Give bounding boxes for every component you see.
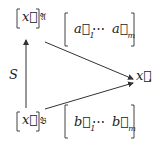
bottom-matrix-last: b⃗m (112, 115, 136, 128)
target-punct: . (148, 70, 152, 83)
arrow-bottom (45, 83, 133, 109)
bottom-matrix-ellipsis: ⋯ (92, 115, 105, 128)
top-matrix-last: a⃗m (112, 22, 135, 35)
top-coord-vector: x⃗ (22, 10, 37, 23)
arrow-label-s: S (9, 68, 18, 81)
bottom-coord-basis: 𝔅 (40, 117, 47, 126)
arrow-top (45, 42, 133, 79)
bottom-coord-vector: x⃗ (22, 113, 37, 126)
top-matrix-ellipsis: ⋯ (92, 22, 105, 35)
top-coord-basis: 𝔄 (40, 13, 46, 22)
